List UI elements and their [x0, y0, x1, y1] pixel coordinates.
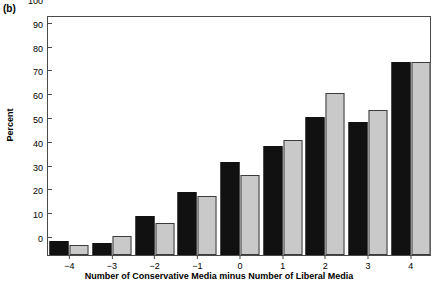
bar: [391, 62, 410, 255]
x-tick: 2: [323, 255, 328, 271]
bar: [155, 223, 174, 255]
bar: [135, 216, 154, 255]
y-tick: 0: [38, 228, 48, 246]
y-axis-title: Percent: [5, 89, 15, 161]
bar: [306, 117, 325, 255]
y-tick-label: 100: [28, 0, 48, 6]
x-tick: −2: [150, 255, 160, 271]
bar: [349, 122, 368, 255]
x-tick-mark: [367, 255, 368, 259]
bar-group: [349, 17, 388, 255]
bar: [93, 243, 112, 255]
y-tick-label: 60: [33, 91, 48, 101]
y-tick: 70: [33, 61, 48, 79]
x-tick-mark: [69, 255, 70, 259]
x-tick-label: 2: [323, 261, 328, 271]
x-tick: 3: [365, 255, 370, 271]
y-tick-label: 0: [38, 234, 48, 244]
x-tick: 0: [237, 255, 242, 271]
bar-group: [391, 17, 430, 255]
x-tick-label: −2: [150, 261, 160, 271]
y-tick-label: 50: [33, 115, 48, 125]
bar: [70, 245, 89, 255]
y-tick: 100: [28, 0, 48, 8]
bar-group: [306, 17, 345, 255]
x-tick-mark: [410, 255, 411, 259]
y-tick: 80: [33, 38, 48, 56]
y-tick: 60: [33, 85, 48, 103]
y-tick: 40: [33, 133, 48, 151]
bar: [241, 175, 260, 255]
y-tick: 20: [33, 180, 48, 198]
x-tick: −1: [192, 255, 202, 271]
y-tick: 90: [33, 14, 48, 32]
x-tick-label: 0: [237, 261, 242, 271]
x-tick: 4: [408, 255, 413, 271]
x-tick-label: 3: [365, 261, 370, 271]
panel-label: (b): [3, 3, 16, 14]
figure-panel-b: (b) Percent 0102030405060708090100 −4−3−…: [0, 0, 438, 291]
bar: [411, 62, 430, 255]
x-tick-mark: [282, 255, 283, 259]
x-tick-label: −3: [107, 261, 117, 271]
bar-group: [50, 17, 89, 255]
y-tick-label: 20: [33, 186, 48, 196]
bar: [283, 140, 302, 255]
x-tick: 1: [280, 255, 285, 271]
x-tick-mark: [325, 255, 326, 259]
bar: [369, 110, 388, 255]
y-tick-label: 80: [33, 44, 48, 54]
x-tick: −3: [107, 255, 117, 271]
bar-group: [263, 17, 302, 255]
bar: [178, 192, 197, 255]
plot-area: 0102030405060708090100 −4−3−2−101234: [47, 16, 431, 256]
bar: [221, 162, 240, 255]
bar: [198, 196, 217, 256]
x-tick-label: −1: [192, 261, 202, 271]
y-tick: 50: [33, 109, 48, 127]
y-tick-label: 30: [33, 163, 48, 173]
bar-group: [178, 17, 217, 255]
y-tick: 30: [33, 157, 48, 175]
y-tick: 10: [33, 204, 48, 222]
y-tick-label: 70: [33, 67, 48, 77]
bar: [326, 93, 345, 255]
x-tick-label: −4: [64, 261, 74, 271]
y-tick-label: 40: [33, 139, 48, 149]
x-tick-label: 4: [408, 261, 413, 271]
bar-group: [135, 17, 174, 255]
bar-group: [221, 17, 260, 255]
bar: [263, 146, 282, 255]
x-tick: −4: [64, 255, 74, 271]
x-tick-mark: [154, 255, 155, 259]
bar: [50, 241, 69, 255]
x-tick-label: 1: [280, 261, 285, 271]
x-tick-mark: [111, 255, 112, 259]
x-tick-mark: [197, 255, 198, 259]
x-axis-title: Number of Conservative Media minus Numbe…: [0, 271, 438, 281]
bar: [113, 236, 132, 255]
y-tick-label: 90: [33, 20, 48, 30]
x-tick-mark: [239, 255, 240, 259]
y-tick-label: 10: [33, 210, 48, 220]
bar-group: [93, 17, 132, 255]
